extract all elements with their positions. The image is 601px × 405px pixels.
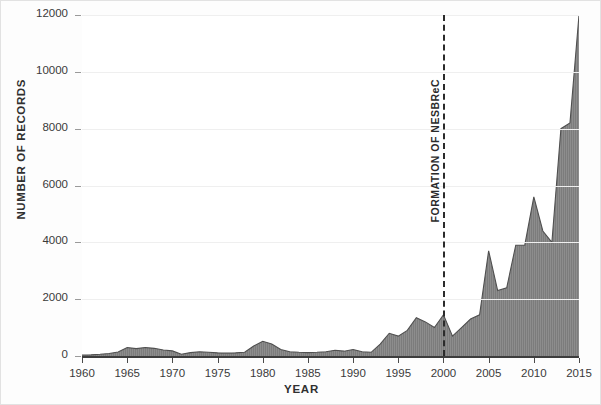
y-tick-label: 12000 — [36, 7, 68, 19]
x-tick-label: 2005 — [476, 367, 502, 379]
x-tick-label: 2010 — [521, 367, 547, 379]
gridline — [82, 242, 579, 243]
x-tick-label: 2015 — [566, 367, 592, 379]
y-tick-mark — [75, 242, 81, 243]
x-tick-label: 1965 — [114, 367, 140, 379]
y-axis-label: NUMBER OF RECORDS — [15, 79, 27, 220]
x-tick-mark — [579, 358, 580, 363]
y-tick-mark — [75, 299, 81, 300]
y-tick-label: 6000 — [42, 178, 68, 190]
y-tick-label: 4000 — [42, 234, 68, 246]
x-axis-line — [82, 356, 579, 358]
y-tick-label: 0 — [62, 348, 68, 360]
annotation-label: FORMATION OF NESBReC — [429, 79, 441, 222]
x-tick-mark — [218, 358, 219, 363]
plot-area — [82, 15, 579, 356]
x-tick-label: 1970 — [160, 367, 186, 379]
y-tick-label: 10000 — [36, 64, 68, 76]
x-axis-label: YEAR — [1, 383, 601, 395]
gridline — [82, 15, 579, 16]
y-tick-mark — [75, 186, 81, 187]
y-tick-mark — [75, 129, 81, 130]
gridline — [82, 72, 579, 73]
x-tick-label: 1960 — [69, 367, 95, 379]
x-tick-mark — [353, 358, 354, 363]
x-tick-mark — [82, 358, 83, 363]
x-tick-mark — [534, 358, 535, 363]
x-tick-mark — [308, 358, 309, 363]
x-tick-mark — [127, 358, 128, 363]
y-tick-mark — [75, 15, 81, 16]
x-tick-label: 1980 — [250, 367, 276, 379]
y-tick-mark — [75, 356, 81, 357]
gridline — [82, 186, 579, 187]
x-tick-mark — [443, 358, 444, 363]
y-tick-label: 8000 — [42, 121, 68, 133]
x-tick-label: 1985 — [295, 367, 321, 379]
x-tick-label: 2000 — [431, 367, 457, 379]
x-tick-label: 1995 — [385, 367, 411, 379]
x-tick-mark — [398, 358, 399, 363]
x-tick-mark — [489, 358, 490, 363]
x-tick-label: 1975 — [205, 367, 231, 379]
chart-figure: NUMBER OF RECORDS FORMATION OF NESBReC 0… — [0, 0, 601, 405]
annotation-vline — [443, 15, 445, 356]
x-tick-mark — [263, 358, 264, 363]
x-tick-mark — [172, 358, 173, 363]
y-tick-mark — [75, 72, 81, 73]
gridline — [82, 299, 579, 300]
x-tick-label: 1990 — [340, 367, 366, 379]
y-tick-label: 2000 — [42, 291, 68, 303]
gridline — [82, 129, 579, 130]
